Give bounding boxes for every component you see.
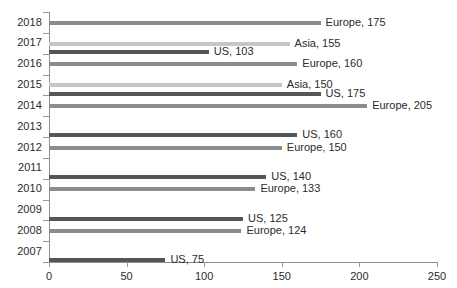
x-axis-label-150: 150 [262,270,302,282]
bar-data-label-2015-us: US, 175 [326,88,366,99]
x-axis-label-50: 50 [107,270,147,282]
x-axis-tick [204,262,205,267]
y-axis-tick [43,12,49,13]
y-axis-tick [43,200,49,201]
y-axis-tick [43,75,49,76]
bar-2014-europe [49,104,367,108]
bar-2017-us [49,50,209,54]
bar-data-label-2007-us: US, 75 [170,254,204,265]
bar-2007-us [49,258,165,262]
bar-2015-us [49,92,321,96]
y-axis-label-2007: 2007 [0,246,42,257]
y-axis-label-2009: 2009 [0,204,42,215]
bar-2018-europe [49,21,321,25]
bar-2010-europe [49,187,255,191]
bar-data-label-2016-europe: Europe, 160 [302,58,362,69]
bar-data-label-2017-asia: Asia, 155 [295,38,341,49]
x-axis-label-100: 100 [184,270,224,282]
y-axis-label-2016: 2016 [0,58,42,69]
bar-2008-europe [49,229,241,233]
x-axis-label-200: 200 [339,270,379,282]
bar-data-label-2014-europe: Europe, 205 [372,100,432,111]
bar-data-label-2011-us: US, 140 [271,171,311,182]
bar-data-label-2012-europe: Europe, 150 [287,142,347,153]
y-axis-label-2012: 2012 [0,142,42,153]
bar-data-label-2017-us: US, 103 [214,46,254,57]
y-axis-label-2011: 2011 [0,162,42,173]
y-axis-label-2014: 2014 [0,100,42,111]
bar-2012-europe [49,146,282,150]
x-axis-label-0: 0 [29,270,69,282]
x-axis-label-250: 250 [417,270,457,282]
y-axis-tick [43,241,49,242]
bar-2015-asia [49,83,282,87]
y-axis-label-2017: 2017 [0,37,42,48]
bar-2009-us [49,217,243,221]
y-axis-tick [43,33,49,34]
x-axis-tick [282,262,283,267]
bar-data-label-2010-europe: Europe, 133 [260,183,320,194]
bar-data-label-2018-europe: Europe, 175 [326,17,386,28]
x-axis-tick [127,262,128,267]
bar-data-label-2009-us: US, 125 [248,213,288,224]
y-axis-label-2010: 2010 [0,183,42,194]
x-axis-tick [49,262,50,267]
bar-2013-us [49,133,297,137]
y-axis-label-2013: 2013 [0,121,42,132]
y-axis-tick [43,116,49,117]
y-axis-label-2015: 2015 [0,79,42,90]
x-axis-tick [437,262,438,267]
y-axis-label-2008: 2008 [0,225,42,236]
bar-2016-europe [49,62,297,66]
x-axis-tick [359,262,360,267]
bar-chart: 2018201720162015201420132012201120102009… [0,0,457,288]
y-axis-label-2018: 2018 [0,17,42,28]
y-axis-tick [43,158,49,159]
bar-data-label-2013-us: US, 160 [302,129,342,140]
bar-data-label-2008-europe: Europe, 124 [246,225,306,236]
bar-2011-us [49,175,266,179]
